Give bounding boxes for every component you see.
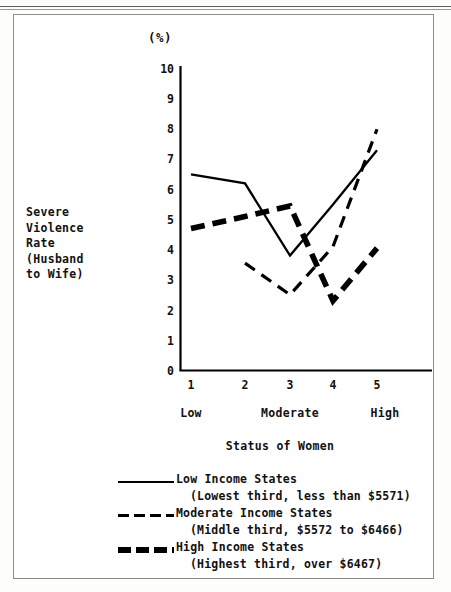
- y-tick-7: 7: [148, 152, 174, 166]
- legend-label-moderate-income: Moderate Income States: [176, 506, 333, 520]
- figure-page: (%) Severe Violence Rate (Husband to Wif…: [0, 0, 451, 592]
- x-category-low: Low: [146, 406, 236, 420]
- x-tick-2: 2: [233, 378, 257, 392]
- y-tick-3: 3: [148, 273, 174, 287]
- legend-swatch-dashed-icon: [118, 514, 174, 517]
- x-category-moderate: Moderate: [245, 406, 335, 420]
- legend-item-moderate-income: Moderate Income States: [118, 506, 418, 523]
- legend-note-low-income: (Lowest third, less than $5571): [118, 489, 418, 506]
- y-tick-8: 8: [148, 122, 174, 136]
- y-tick-5: 5: [148, 213, 174, 227]
- series-high-income-line: [191, 206, 377, 301]
- x-axis-title: Status of Women: [185, 439, 375, 453]
- legend-label-high-income: High Income States: [176, 540, 304, 554]
- legend-label-low-income: Low Income States: [176, 472, 297, 486]
- x-tick-4: 4: [321, 378, 345, 392]
- x-tick-3: 3: [278, 378, 302, 392]
- legend-note-moderate-income: (Middle third, $5572 to $6466): [118, 523, 418, 540]
- y-tick-10: 10: [148, 62, 174, 76]
- y-tick-6: 6: [148, 183, 174, 197]
- chart-legend: Low Income States (Lowest third, less th…: [118, 472, 418, 574]
- legend-swatch-thick-dashed-icon: [118, 547, 174, 553]
- x-tick-1: 1: [179, 378, 203, 392]
- legend-note-high-income: (Highest third, over $6467): [118, 557, 418, 574]
- legend-item-low-income: Low Income States: [118, 472, 418, 489]
- chart-area: (%) Severe Violence Rate (Husband to Wif…: [0, 0, 451, 592]
- x-tick-5: 5: [365, 378, 389, 392]
- y-tick-0: 0: [148, 364, 174, 378]
- legend-item-high-income: High Income States: [118, 540, 418, 557]
- y-tick-4: 4: [148, 243, 174, 257]
- y-tick-1: 1: [148, 334, 174, 348]
- x-category-high: High: [340, 406, 430, 420]
- legend-swatch-solid-icon: [118, 481, 174, 483]
- y-tick-9: 9: [148, 92, 174, 106]
- y-tick-2: 2: [148, 304, 174, 318]
